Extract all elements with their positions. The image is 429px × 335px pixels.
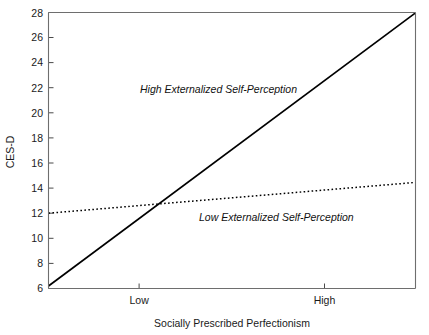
y-tick-label-12: 12 [31, 207, 43, 219]
y-axis-tick-labels: 6 8 10 12 14 16 18 20 22 24 26 28 [31, 7, 43, 295]
y-tick-label-16: 16 [31, 157, 43, 169]
y-tick-label-18: 18 [31, 132, 43, 144]
y-tick-label-6: 6 [37, 282, 43, 294]
y-tick-label-24: 24 [31, 56, 43, 68]
y-tick-label-22: 22 [31, 82, 43, 94]
y-tick-label-26: 26 [31, 31, 43, 43]
x-axis-tick-labels: Low High [129, 294, 335, 306]
annotation-low-externalized-self-perception: Low Externalized Self-Perception [199, 211, 354, 223]
y-tick-label-8: 8 [37, 257, 43, 269]
y-tick-label-10: 10 [31, 232, 43, 244]
y-tick-label-28: 28 [31, 7, 43, 19]
x-axis-title: Socially Prescribed Perfectionism [154, 317, 310, 329]
y-axis-title: CES-D [4, 135, 16, 168]
chart-figure: 6 8 10 12 14 16 18 20 22 24 26 28 Low Hi… [0, 0, 429, 335]
annotation-high-externalized-self-perception: High Externalized Self-Perception [140, 83, 297, 95]
y-tick-label-20: 20 [31, 107, 43, 119]
x-tick-label-high: High [314, 294, 336, 306]
line-chart: 6 8 10 12 14 16 18 20 22 24 26 28 Low Hi… [0, 0, 429, 335]
x-tick-label-low: Low [129, 294, 149, 306]
y-tick-label-14: 14 [31, 182, 43, 194]
